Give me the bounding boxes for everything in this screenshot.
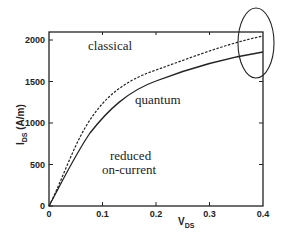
classical-curve — [49, 36, 263, 206]
x-tick-0.4: 0.4 — [257, 209, 270, 219]
on-current-label: on-current — [102, 162, 157, 177]
chart-container: 0 500 1000 1500 2000 0 0.1 0.2 0.3 0.4 c… — [0, 0, 287, 241]
y-tick-1000: 1000 — [25, 118, 45, 128]
chart-svg: 0 500 1000 1500 2000 0 0.1 0.2 0.3 0.4 c… — [0, 0, 287, 241]
highlight-ellipse — [238, 8, 274, 78]
classical-label: classical — [88, 38, 132, 53]
quantum-label: quantum — [135, 92, 181, 107]
x-tick-0.2: 0.2 — [150, 209, 163, 219]
reduced-label: reduced — [110, 148, 152, 163]
quantum-curve — [49, 52, 263, 206]
y-tick-labels: 0 500 1000 1500 2000 — [25, 35, 45, 211]
y-tick-1500: 1500 — [25, 77, 45, 87]
y-tick-2000: 2000 — [25, 35, 45, 45]
x-tick-0.3: 0.3 — [203, 209, 216, 219]
x-axis-label: VDS — [178, 216, 195, 229]
x-tick-0: 0 — [46, 209, 51, 219]
x-tick-0.1: 0.1 — [96, 209, 109, 219]
y-tick-0: 0 — [40, 201, 45, 211]
y-tick-500: 500 — [30, 160, 45, 170]
svg-text:VDS: VDS — [178, 216, 195, 229]
x-tick-labels: 0 0.1 0.2 0.3 0.4 — [46, 209, 269, 219]
